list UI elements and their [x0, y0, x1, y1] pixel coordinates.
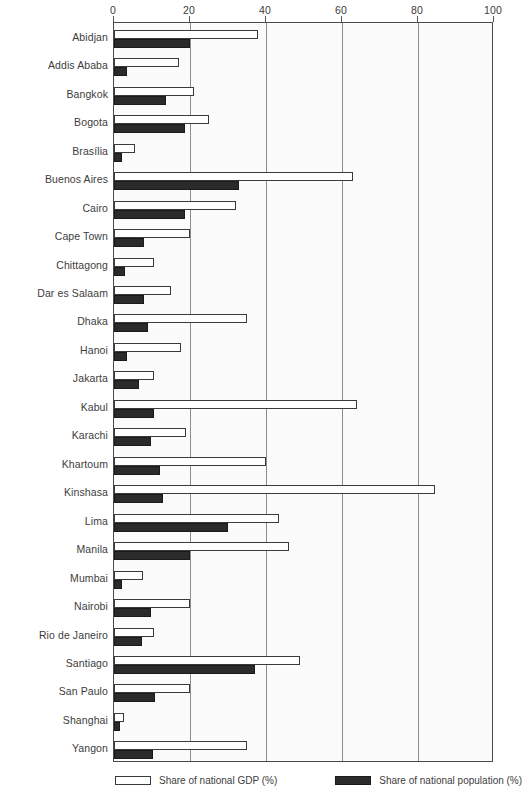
bar-share-of-gdp	[114, 371, 154, 380]
bar-row	[114, 222, 492, 250]
bar-row	[114, 137, 492, 165]
bar-share-of-population	[114, 665, 255, 674]
bar-row	[114, 80, 492, 108]
x-axis-tick-label: 100	[484, 4, 502, 16]
bar-share-of-gdp	[114, 172, 353, 181]
y-axis-label-kabul: Kabul	[0, 401, 108, 413]
bar-row	[114, 564, 492, 592]
legend-swatch-gdp	[115, 776, 151, 785]
plot-area	[113, 22, 493, 762]
y-axis-label-dhaka: Dhaka	[0, 315, 108, 327]
bar-share-of-gdp	[114, 428, 186, 437]
bar-share-of-gdp	[114, 144, 135, 153]
bar-row	[114, 621, 492, 649]
y-axis-label-santiago: Santiago	[0, 657, 108, 669]
y-axis-category-labels: AbidjanAddis AbabaBangkokBogotaBrasíliaB…	[0, 22, 108, 762]
y-axis-label-karachi: Karachi	[0, 429, 108, 441]
bar-share-of-population	[114, 295, 144, 304]
legend-label-gdp: Share of national GDP (%)	[159, 775, 277, 786]
y-axis-label-dar-es-salaam: Dar es Salaam	[0, 287, 108, 299]
bar-share-of-population	[114, 67, 127, 76]
bar-row	[114, 51, 492, 79]
y-axis-label-lima: Lima	[0, 515, 108, 527]
bar-share-of-gdp	[114, 343, 181, 352]
bar-row	[114, 535, 492, 563]
bar-share-of-population	[114, 580, 122, 589]
bar-share-of-gdp	[114, 400, 357, 409]
bar-share-of-gdp	[114, 514, 279, 523]
bar-share-of-gdp	[114, 457, 266, 466]
x-axis-tick-label: 40	[259, 4, 271, 16]
bar-row	[114, 478, 492, 506]
x-axis-tick-mark	[493, 16, 494, 22]
bar-row	[114, 649, 492, 677]
bar-share-of-population	[114, 608, 151, 617]
bar-share-of-gdp	[114, 314, 247, 323]
bar-row	[114, 23, 492, 51]
x-axis-tick-label: 80	[411, 4, 423, 16]
bar-share-of-population	[114, 551, 190, 560]
bar-share-of-population	[114, 267, 125, 276]
bar-share-of-gdp	[114, 58, 179, 67]
bar-share-of-population	[114, 466, 160, 475]
bar-share-of-gdp	[114, 628, 154, 637]
bar-rows	[114, 23, 492, 761]
bar-row	[114, 108, 492, 136]
y-axis-label-nairobi: Nairobi	[0, 600, 108, 612]
bar-share-of-population	[114, 523, 228, 532]
bar-share-of-gdp	[114, 258, 154, 267]
bar-share-of-population	[114, 380, 139, 389]
bar-row	[114, 706, 492, 734]
x-axis-tick-label: 60	[335, 4, 347, 16]
bar-row	[114, 393, 492, 421]
bar-share-of-gdp	[114, 229, 190, 238]
y-axis-label-bangkok: Bangkok	[0, 88, 108, 100]
bar-share-of-gdp	[114, 115, 209, 124]
bar-share-of-gdp	[114, 599, 190, 608]
chart-legend: Share of national GDP (%)Share of nation…	[113, 770, 493, 790]
bar-share-of-population	[114, 693, 155, 702]
y-axis-label-abidjan: Abidjan	[0, 31, 108, 43]
bar-share-of-population	[114, 494, 163, 503]
bar-share-of-population	[114, 323, 148, 332]
bar-row	[114, 165, 492, 193]
y-axis-label-cape-town: Cape Town	[0, 230, 108, 242]
x-axis-tick-label: 20	[183, 4, 195, 16]
bar-row	[114, 450, 492, 478]
bar-share-of-population	[114, 352, 127, 361]
bar-row	[114, 308, 492, 336]
bar-row	[114, 507, 492, 535]
x-axis: 020406080100	[0, 0, 502, 22]
y-axis-label-shanghai: Shanghai	[0, 714, 108, 726]
y-axis-label-buenos-aires: Buenos Aires	[0, 173, 108, 185]
bar-row	[114, 336, 492, 364]
y-axis-label-hanoi: Hanoi	[0, 344, 108, 356]
bar-share-of-population	[114, 210, 185, 219]
y-axis-label-jakarta: Jakarta	[0, 372, 108, 384]
y-axis-label-rio-de-janeiro: Rio de Janeiro	[0, 629, 108, 641]
bar-share-of-population	[114, 39, 190, 48]
bar-share-of-population	[114, 153, 122, 162]
bar-share-of-population	[114, 437, 151, 446]
bar-row	[114, 251, 492, 279]
x-axis-tick-label: 0	[110, 4, 116, 16]
bar-row	[114, 365, 492, 393]
bar-share-of-population	[114, 238, 144, 247]
bar-row	[114, 279, 492, 307]
bar-share-of-gdp	[114, 741, 247, 750]
y-axis-label-manila: Manila	[0, 543, 108, 555]
legend-label-pop: Share of national population (%)	[379, 775, 522, 786]
bar-share-of-population	[114, 409, 154, 418]
bar-share-of-gdp	[114, 542, 289, 551]
y-axis-label-cairo: Cairo	[0, 202, 108, 214]
bar-share-of-population	[114, 637, 142, 646]
bar-row	[114, 678, 492, 706]
y-axis-label-kinshasa: Kinshasa	[0, 486, 108, 498]
bar-row	[114, 194, 492, 222]
bar-row	[114, 421, 492, 449]
bar-share-of-gdp	[114, 87, 194, 96]
y-axis-label-bogota: Bogota	[0, 116, 108, 128]
bar-row	[114, 592, 492, 620]
bar-share-of-gdp	[114, 30, 258, 39]
